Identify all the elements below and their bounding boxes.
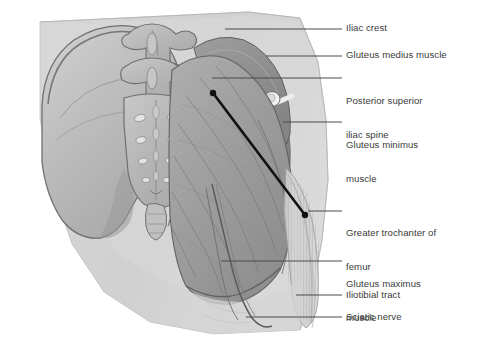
- anatomical-figure: Iliac crest Gluteus medius muscle Poster…: [0, 0, 487, 338]
- label-line-1: Posterior superior: [346, 95, 423, 106]
- label-iliotibial-tract: Iliotibial tract: [346, 289, 400, 300]
- label-line-1: Greater trochanter of: [346, 227, 436, 238]
- label-gluteus-minimus-muscle: Gluteus minimus muscle: [346, 116, 418, 207]
- label-gluteus-medius-muscle: Gluteus medius muscle: [346, 49, 447, 60]
- label-sciatic-nerve: Sciatic nerve: [346, 311, 402, 322]
- label-line-2: muscle: [346, 173, 418, 184]
- label-layer: Iliac crest Gluteus medius muscle Poster…: [0, 0, 487, 338]
- label-iliac-crest: Iliac crest: [346, 22, 387, 33]
- label-line-1: Gluteus maximus: [346, 278, 421, 289]
- label-line-1: Gluteus minimus: [346, 139, 418, 150]
